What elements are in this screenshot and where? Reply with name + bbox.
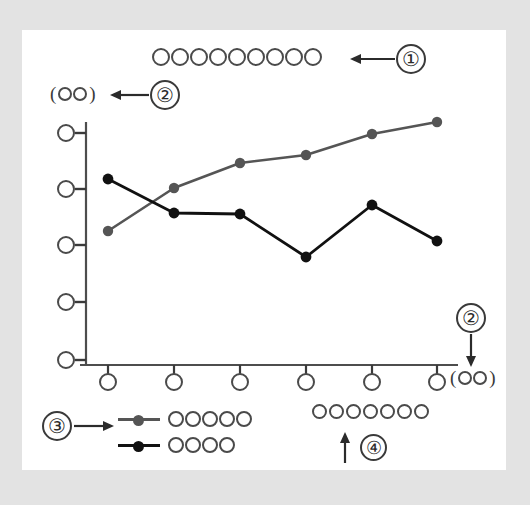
y-unit-placeholder-circle (73, 87, 87, 101)
x-tick-label (231, 373, 250, 395)
callout-2b-arrow-down-icon (464, 334, 478, 368)
note-placeholder-circle (363, 404, 378, 419)
x-tick-placeholder-circle (428, 373, 446, 391)
note-placeholder-circle (397, 404, 412, 419)
legend-placeholder-circle (219, 411, 235, 427)
title-placeholder-circle (209, 48, 227, 66)
title-placeholder-circle (285, 48, 303, 66)
y-unit-close-paren: ) (89, 84, 95, 103)
y-tick-placeholder-circle (57, 124, 75, 142)
legend-placeholder-circle (202, 411, 218, 427)
callout-4-arrow-up-icon (338, 432, 352, 464)
x-tick-placeholder-circle (99, 373, 117, 391)
title-placeholder-circle (266, 48, 284, 66)
note-placeholder-circle (312, 404, 327, 419)
legend-placeholder-circle (185, 437, 201, 453)
legend-placeholder-circle (219, 437, 235, 453)
legend-key-series-2 (118, 438, 160, 452)
legend-placeholder-circle (185, 411, 201, 427)
x-unit-close-paren: ) (489, 368, 495, 387)
title-placeholder-circle (304, 48, 322, 66)
note-placeholder-circle (329, 404, 344, 419)
x-tick-placeholder-circle (363, 373, 381, 391)
x-tick-placeholder-circle (297, 373, 315, 391)
legend-item-series-2 (118, 434, 253, 456)
chart-title (152, 48, 323, 66)
legend-placeholder-circle (202, 437, 218, 453)
series-1-line (103, 117, 442, 236)
y-tick-label (57, 124, 76, 146)
legend-label-series-2 (168, 437, 236, 453)
x-tick-label (297, 373, 316, 395)
y-unit-placeholder-circle (58, 87, 72, 101)
x-unit-placeholder-circle (473, 371, 487, 385)
x-tick-label (428, 373, 447, 395)
y-tick-label (57, 236, 76, 258)
legend-placeholder-circle (168, 411, 184, 427)
source-note (312, 404, 431, 419)
y-axis-unit: ( ) (50, 84, 96, 103)
plot-area (60, 110, 460, 375)
callout-2b-badge: ② (456, 303, 486, 333)
callout-2-arrow-left-icon (108, 88, 150, 102)
callout-2-badge: ② (150, 80, 180, 110)
callout-3-arrow-right-icon (74, 419, 116, 433)
y-tick-placeholder-circle (57, 236, 75, 254)
title-placeholder-circle (152, 48, 170, 66)
note-placeholder-circle (414, 404, 429, 419)
y-unit-open-paren: ( (50, 84, 56, 103)
x-tick-label (165, 373, 184, 395)
callout-1-arrow-left-icon (348, 52, 396, 66)
legend-placeholder-circle (168, 437, 184, 453)
x-tick-placeholder-circle (231, 373, 249, 391)
y-tick-label (57, 293, 76, 315)
note-placeholder-circle (380, 404, 395, 419)
y-tick-label (57, 351, 76, 373)
legend-placeholder-circle (236, 411, 252, 427)
title-placeholder-circle (228, 48, 246, 66)
x-axis-unit: ( ) (450, 368, 496, 387)
legend-label-series-1 (168, 411, 253, 427)
legend-key-series-1 (118, 412, 160, 426)
callout-3-badge: ③ (42, 411, 72, 441)
callout-4-badge: ④ (360, 434, 387, 461)
y-tick-placeholder-circle (57, 293, 75, 311)
x-unit-open-paren: ( (450, 368, 456, 387)
title-placeholder-circle (190, 48, 208, 66)
x-tick-label (363, 373, 382, 395)
x-tick-placeholder-circle (165, 373, 183, 391)
x-unit-placeholder-circle (458, 371, 472, 385)
y-tick-placeholder-circle (57, 180, 75, 198)
figure-root: ① ( ) ② (0, 0, 530, 505)
y-tick-label (57, 180, 76, 202)
legend (118, 408, 253, 460)
note-placeholder-circle (346, 404, 361, 419)
title-placeholder-circle (171, 48, 189, 66)
legend-item-series-1 (118, 408, 253, 430)
series-2-line (103, 174, 443, 263)
y-tick-placeholder-circle (57, 351, 75, 369)
callout-1-badge: ① (396, 44, 426, 74)
x-tick-label (99, 373, 118, 395)
title-placeholder-circle (247, 48, 265, 66)
